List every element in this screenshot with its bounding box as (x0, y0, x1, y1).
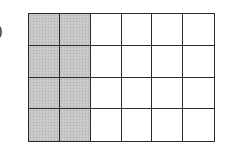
shaded-cell-r0-c1 (60, 14, 91, 46)
shaded-cell-r1-c1 (60, 46, 91, 78)
grid-cell-r3-c5 (183, 109, 214, 141)
grid-cell-r0-c4 (152, 14, 183, 46)
grid-cell-r1-c4 (152, 46, 183, 78)
grid-cell-r2-c5 (183, 78, 214, 110)
grid-cell-r0-c5 (183, 14, 214, 46)
figure-label-fragment: ) (0, 22, 2, 40)
figure-canvas: ) (0, 0, 231, 166)
fraction-grid (28, 13, 215, 142)
grid-cell-r2-c2 (91, 78, 122, 110)
grid-cell-r0-c3 (122, 14, 153, 46)
grid-cell-r2-c4 (152, 78, 183, 110)
grid-cell-r3-c2 (91, 109, 122, 141)
grid-cell-r3-c4 (152, 109, 183, 141)
shaded-cell-r3-c1 (60, 109, 91, 141)
shaded-cell-r0-c0 (29, 14, 60, 46)
grid-cell-r1-c5 (183, 46, 214, 78)
grid-cell-r3-c3 (122, 109, 153, 141)
grid-cell-r1-c3 (122, 46, 153, 78)
shaded-cell-r2-c0 (29, 78, 60, 110)
grid-cell-r1-c2 (91, 46, 122, 78)
grid-cell-r2-c3 (122, 78, 153, 110)
shaded-cell-r2-c1 (60, 78, 91, 110)
shaded-cell-r3-c0 (29, 109, 60, 141)
shaded-cell-r1-c0 (29, 46, 60, 78)
grid-cell-r0-c2 (91, 14, 122, 46)
